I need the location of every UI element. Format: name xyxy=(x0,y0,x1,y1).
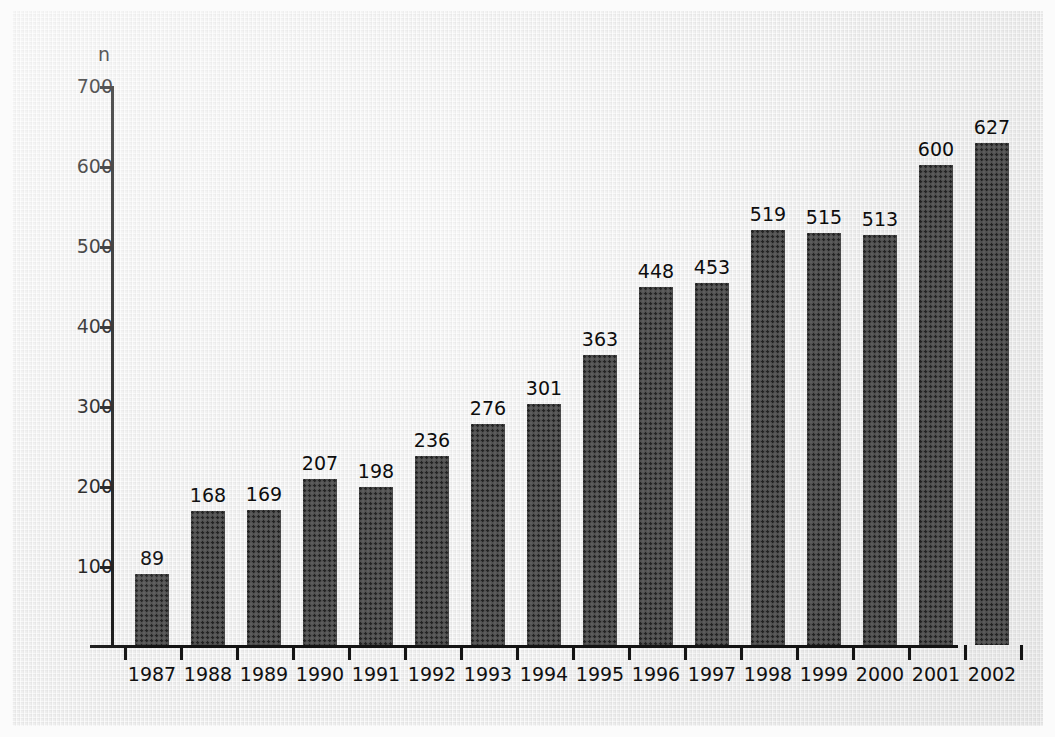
bar[interactable] xyxy=(695,283,729,645)
x-tick-mark xyxy=(404,645,407,660)
bar[interactable] xyxy=(919,165,953,645)
x-axis-label[interactable]: 1990 xyxy=(292,665,348,684)
bar-value-label: 198 xyxy=(348,462,404,481)
x-axis-label[interactable]: 1988 xyxy=(180,665,236,684)
bar[interactable] xyxy=(975,143,1009,645)
bar-value-label: 519 xyxy=(740,205,796,224)
x-tick-mark xyxy=(964,645,967,660)
bar[interactable] xyxy=(751,230,785,645)
x-axis-label[interactable]: 1989 xyxy=(236,665,292,684)
x-tick-mark xyxy=(1020,645,1023,660)
y-tick-label: 400 xyxy=(67,317,113,336)
y-tick-label: 200 xyxy=(67,477,113,496)
bar-value-label: 453 xyxy=(684,258,740,277)
x-tick-mark xyxy=(740,645,743,660)
x-tick-mark xyxy=(180,645,183,660)
x-tick-mark xyxy=(572,645,575,660)
bar[interactable] xyxy=(863,235,897,645)
bar[interactable] xyxy=(639,287,673,645)
bar[interactable] xyxy=(359,487,393,645)
x-tick-mark xyxy=(348,645,351,660)
x-axis-line xyxy=(90,645,958,648)
bar-value-label: 301 xyxy=(516,379,572,398)
x-axis-label[interactable]: 1993 xyxy=(460,665,516,684)
chart-figure: n 100200300400500600700 8916816920719823… xyxy=(12,11,1043,726)
x-axis-label[interactable]: 1992 xyxy=(404,665,460,684)
bar[interactable] xyxy=(191,511,225,645)
bar-value-label: 363 xyxy=(572,330,628,349)
x-axis-label[interactable]: 1997 xyxy=(684,665,740,684)
x-axis-label[interactable]: 2001 xyxy=(908,665,964,684)
bar-value-label: 236 xyxy=(404,431,460,450)
bar-value-label: 168 xyxy=(180,486,236,505)
x-tick-mark xyxy=(236,645,239,660)
x-axis-label[interactable]: 1991 xyxy=(348,665,404,684)
plot-area: n 100200300400500600700 8916816920719823… xyxy=(12,11,1043,726)
x-axis-label[interactable]: 1998 xyxy=(740,665,796,684)
y-tick-label: 500 xyxy=(67,237,113,256)
bar[interactable] xyxy=(471,424,505,645)
bar-value-label: 207 xyxy=(292,454,348,473)
x-tick-mark xyxy=(292,645,295,660)
bar[interactable] xyxy=(303,479,337,645)
x-axis-label[interactable]: 1994 xyxy=(516,665,572,684)
y-tick-label: 300 xyxy=(67,397,113,416)
bar[interactable] xyxy=(415,456,449,645)
bar-value-label: 600 xyxy=(908,140,964,159)
bar-value-label: 627 xyxy=(964,118,1020,137)
bar[interactable] xyxy=(247,510,281,645)
x-axis-label[interactable]: 1987 xyxy=(124,665,180,684)
x-axis-label[interactable]: 1999 xyxy=(796,665,852,684)
x-axis-label[interactable]: 1995 xyxy=(572,665,628,684)
bar-value-label: 513 xyxy=(852,210,908,229)
y-tick-label: 100 xyxy=(67,557,113,576)
bar-value-label: 169 xyxy=(236,485,292,504)
bar[interactable] xyxy=(807,233,841,645)
x-axis-left-stub xyxy=(90,645,114,648)
x-tick-mark xyxy=(628,645,631,660)
y-tick-label: 700 xyxy=(67,77,113,96)
x-tick-mark xyxy=(516,645,519,660)
bar-value-label: 276 xyxy=(460,399,516,418)
bar[interactable] xyxy=(527,404,561,645)
x-tick-mark xyxy=(908,645,911,660)
x-axis-label[interactable]: 1996 xyxy=(628,665,684,684)
y-tick-label: 600 xyxy=(67,157,113,176)
x-tick-mark xyxy=(852,645,855,660)
x-tick-mark xyxy=(124,645,127,660)
bar[interactable] xyxy=(135,574,169,645)
bar-value-label: 89 xyxy=(124,549,180,568)
bar-value-label: 448 xyxy=(628,262,684,281)
x-tick-mark xyxy=(460,645,463,660)
scan-page: n 100200300400500600700 8916816920719823… xyxy=(0,0,1055,737)
y-axis-title: n xyxy=(98,45,110,64)
x-tick-mark xyxy=(796,645,799,660)
x-axis-label[interactable]: 2000 xyxy=(852,665,908,684)
x-axis-label[interactable]: 2002 xyxy=(964,665,1020,684)
x-tick-mark xyxy=(684,645,687,660)
bar[interactable] xyxy=(583,355,617,645)
bar-value-label: 515 xyxy=(796,208,852,227)
